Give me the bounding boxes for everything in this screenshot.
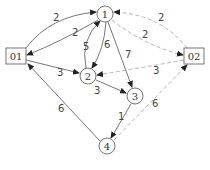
edge-2-to-3 bbox=[96, 80, 126, 93]
node-label-01: 01 bbox=[10, 51, 23, 62]
edge-label-4-02: 6 bbox=[152, 98, 158, 109]
edge-label-02-1: 2 bbox=[158, 12, 164, 23]
edge-label-3-4: 1 bbox=[118, 111, 124, 122]
node-label-02: 02 bbox=[188, 51, 201, 62]
edge-label-1-02: 2 bbox=[142, 29, 148, 40]
node-label-1: 1 bbox=[102, 9, 108, 20]
edge-label-01-1: 2 bbox=[53, 12, 59, 23]
edge-02-to-1 bbox=[114, 12, 187, 48]
edge-label-02-2: 3 bbox=[153, 65, 159, 76]
edge-02-to-2 bbox=[97, 60, 184, 75]
edge-label-2-3: 3 bbox=[94, 85, 100, 96]
node-4: 4 bbox=[99, 138, 115, 154]
node-label-3: 3 bbox=[132, 91, 138, 102]
node-02: 02 bbox=[184, 48, 204, 64]
node-2: 2 bbox=[80, 68, 96, 84]
edge-label-4-01: 6 bbox=[58, 103, 64, 114]
edge-label-01-2: 3 bbox=[57, 67, 63, 78]
node-3: 3 bbox=[127, 88, 143, 104]
network-diagram: 2 2 3 5 6 7 3 1 6 2 2 3 6 1 2 3 4 bbox=[0, 0, 210, 170]
diagram-canvas: 2 2 3 5 6 7 3 1 6 2 2 3 6 1 2 3 4 bbox=[0, 0, 210, 170]
node-label-4: 4 bbox=[104, 141, 110, 152]
edge-label-1-01: 2 bbox=[72, 27, 78, 38]
node-1: 1 bbox=[97, 6, 113, 22]
edge-01-to-2 bbox=[26, 60, 79, 73]
edge-label-1-2: 6 bbox=[104, 39, 110, 50]
edge-label-1-3: 7 bbox=[125, 49, 131, 60]
node-01: 01 bbox=[6, 48, 26, 64]
edges-solid bbox=[26, 12, 132, 141]
node-label-2: 2 bbox=[85, 71, 91, 82]
edge-4-to-02 bbox=[114, 65, 187, 140]
edge-label-2-1: 5 bbox=[83, 41, 89, 52]
